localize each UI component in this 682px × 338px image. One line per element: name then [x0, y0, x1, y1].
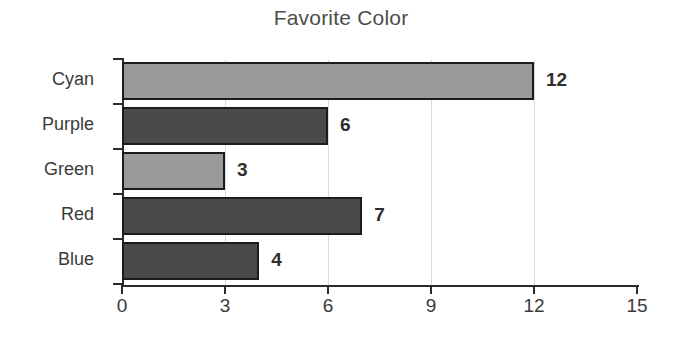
y-tick-red: [113, 238, 122, 240]
value-label-cyan: 12: [546, 69, 567, 91]
bar-green: [122, 152, 225, 190]
category-label-cyan: Cyan: [0, 69, 110, 90]
value-label-red: 7: [374, 204, 385, 226]
category-label-blue: Blue: [0, 249, 110, 270]
value-label-green: 3: [237, 159, 248, 181]
category-label-green: Green: [0, 159, 110, 180]
x-tick-15: [636, 285, 638, 294]
bar-red: [122, 197, 362, 235]
x-tick-label-0: 0: [117, 295, 128, 317]
chart-title: Favorite Color: [0, 6, 682, 30]
x-tick-label-12: 12: [523, 295, 544, 317]
bar-blue: [122, 242, 259, 280]
gridline-x-12: [534, 60, 535, 285]
y-tick-purple: [113, 148, 122, 150]
bar-cyan: [122, 62, 534, 100]
x-axis-line: [122, 285, 639, 287]
y-tick-green: [113, 193, 122, 195]
category-label-red: Red: [0, 204, 110, 225]
x-tick-12: [533, 285, 535, 294]
bar-chart: Favorite Color CyanPurpleGreenRedBlue 12…: [0, 0, 682, 338]
x-tick-0: [121, 285, 123, 294]
x-tick-6: [327, 285, 329, 294]
y-tick-top: [113, 58, 122, 60]
value-label-blue: 4: [271, 249, 282, 271]
x-tick-label-6: 6: [323, 295, 334, 317]
x-tick-label-9: 9: [426, 295, 437, 317]
bar-purple: [122, 107, 328, 145]
x-tick-9: [430, 285, 432, 294]
y-tick-cyan: [113, 103, 122, 105]
category-label-purple: Purple: [0, 114, 110, 135]
x-tick-label-3: 3: [220, 295, 231, 317]
x-tick-3: [224, 285, 226, 294]
x-tick-label-15: 15: [626, 295, 647, 317]
value-label-purple: 6: [340, 114, 351, 136]
